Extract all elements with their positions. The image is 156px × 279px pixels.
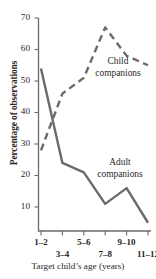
series-label-child-line2: companions	[84, 68, 152, 80]
series-label-adult-companions: Adult companions	[86, 157, 154, 180]
series-line-adult-companions	[41, 68, 148, 222]
x-tick-label: 1–2	[21, 237, 61, 247]
y-tick-label: 50	[8, 75, 30, 85]
chart-figure: Percentage of observations 1020304050607…	[0, 0, 156, 279]
y-tick-label: 10	[8, 201, 30, 211]
y-tick-label: 20	[8, 169, 30, 179]
x-tick-label: 9–10	[107, 237, 147, 247]
series-line-child-companions	[41, 27, 148, 150]
y-tick-label: 70	[8, 12, 30, 22]
series-label-child-line1: Child	[84, 56, 152, 68]
x-tick-label: 5–6	[64, 237, 104, 247]
series-label-child-companions: Child companions	[84, 56, 152, 79]
y-tick-label: 40	[8, 106, 30, 116]
x-tick-label: 3–4	[42, 249, 82, 259]
x-axis-title: Target child’s age (years)	[0, 261, 156, 271]
series-label-adult-line2: companions	[86, 169, 154, 181]
y-tick-label: 60	[8, 43, 30, 53]
series-label-adult-line1: Adult	[86, 157, 154, 169]
x-tick-label: 7–8	[85, 249, 125, 259]
y-tick-label: 30	[8, 138, 30, 148]
x-tick-label: 11–12	[128, 249, 156, 259]
